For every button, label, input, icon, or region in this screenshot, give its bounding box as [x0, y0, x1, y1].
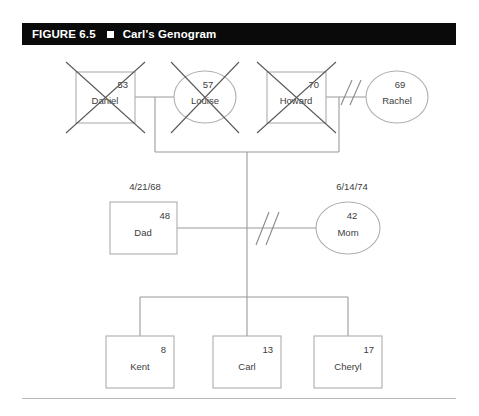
genogram-diagram: 53 Daniel 57 Louise 70 Howard — [0, 0, 479, 416]
person-age: 17 — [363, 344, 374, 355]
deceased-x-icon — [171, 62, 239, 133]
person-age: 8 — [161, 344, 166, 355]
person-name: Louise — [191, 95, 219, 106]
person-mom[interactable]: 6/14/74 42 Mom — [316, 181, 380, 254]
deceased-x-icon — [257, 62, 336, 133]
gen2-union-lines — [140, 228, 348, 336]
person-birthdate: 4/21/68 — [129, 181, 161, 192]
person-birthdate: 6/14/74 — [336, 181, 368, 192]
person-age: 53 — [117, 79, 128, 90]
person-cheryl[interactable]: 17 Cheryl — [314, 336, 382, 388]
person-name: Kent — [130, 361, 150, 372]
person-age: 42 — [347, 210, 358, 221]
person-name: Mom — [337, 227, 358, 238]
divorce-mark-howard-rachel — [341, 80, 361, 105]
person-name: Cheryl — [334, 361, 361, 372]
deceased-x-icon — [66, 62, 145, 133]
person-daniel[interactable]: 53 Daniel — [66, 62, 145, 133]
person-dad[interactable]: 4/21/68 48 Dad — [110, 181, 177, 254]
person-name: Rachel — [382, 95, 412, 106]
gen1-union-lines — [135, 97, 366, 228]
person-louise[interactable]: 57 Louise — [171, 62, 239, 133]
person-name: Carl — [238, 361, 255, 372]
person-kent[interactable]: 8 Kent — [106, 336, 174, 388]
figure-bottom-rule — [22, 398, 456, 399]
person-age: 13 — [262, 344, 273, 355]
person-age: 57 — [203, 79, 214, 90]
person-age: 69 — [395, 79, 406, 90]
person-name: Howard — [280, 95, 313, 106]
person-name: Dad — [134, 227, 151, 238]
person-howard[interactable]: 70 Howard — [257, 62, 336, 133]
person-rachel[interactable]: 69 Rachel — [366, 71, 428, 123]
person-carl[interactable]: 13 Carl — [213, 336, 281, 388]
person-name: Daniel — [92, 95, 119, 106]
person-age: 70 — [308, 79, 319, 90]
person-age: 48 — [159, 210, 170, 221]
